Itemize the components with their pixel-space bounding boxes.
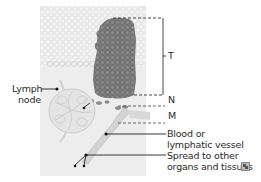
label-vessel-line2: lymphatic vessel (167, 139, 244, 150)
label-spread-line2: organs and tissues (167, 161, 253, 172)
label-vessel-line1: Blood or (167, 128, 205, 139)
label-spread-line1: Spread to other (167, 150, 238, 161)
label-m: M (168, 110, 176, 121)
label-lymph-node-line2: node (18, 94, 41, 105)
expand-icon-glyph (245, 166, 248, 169)
label-lymph-node-line1: Lymph (12, 83, 42, 94)
label-n: N (168, 94, 175, 105)
tumor (93, 18, 136, 99)
expand-icon[interactable] (241, 162, 250, 171)
label-t: T (168, 50, 174, 61)
